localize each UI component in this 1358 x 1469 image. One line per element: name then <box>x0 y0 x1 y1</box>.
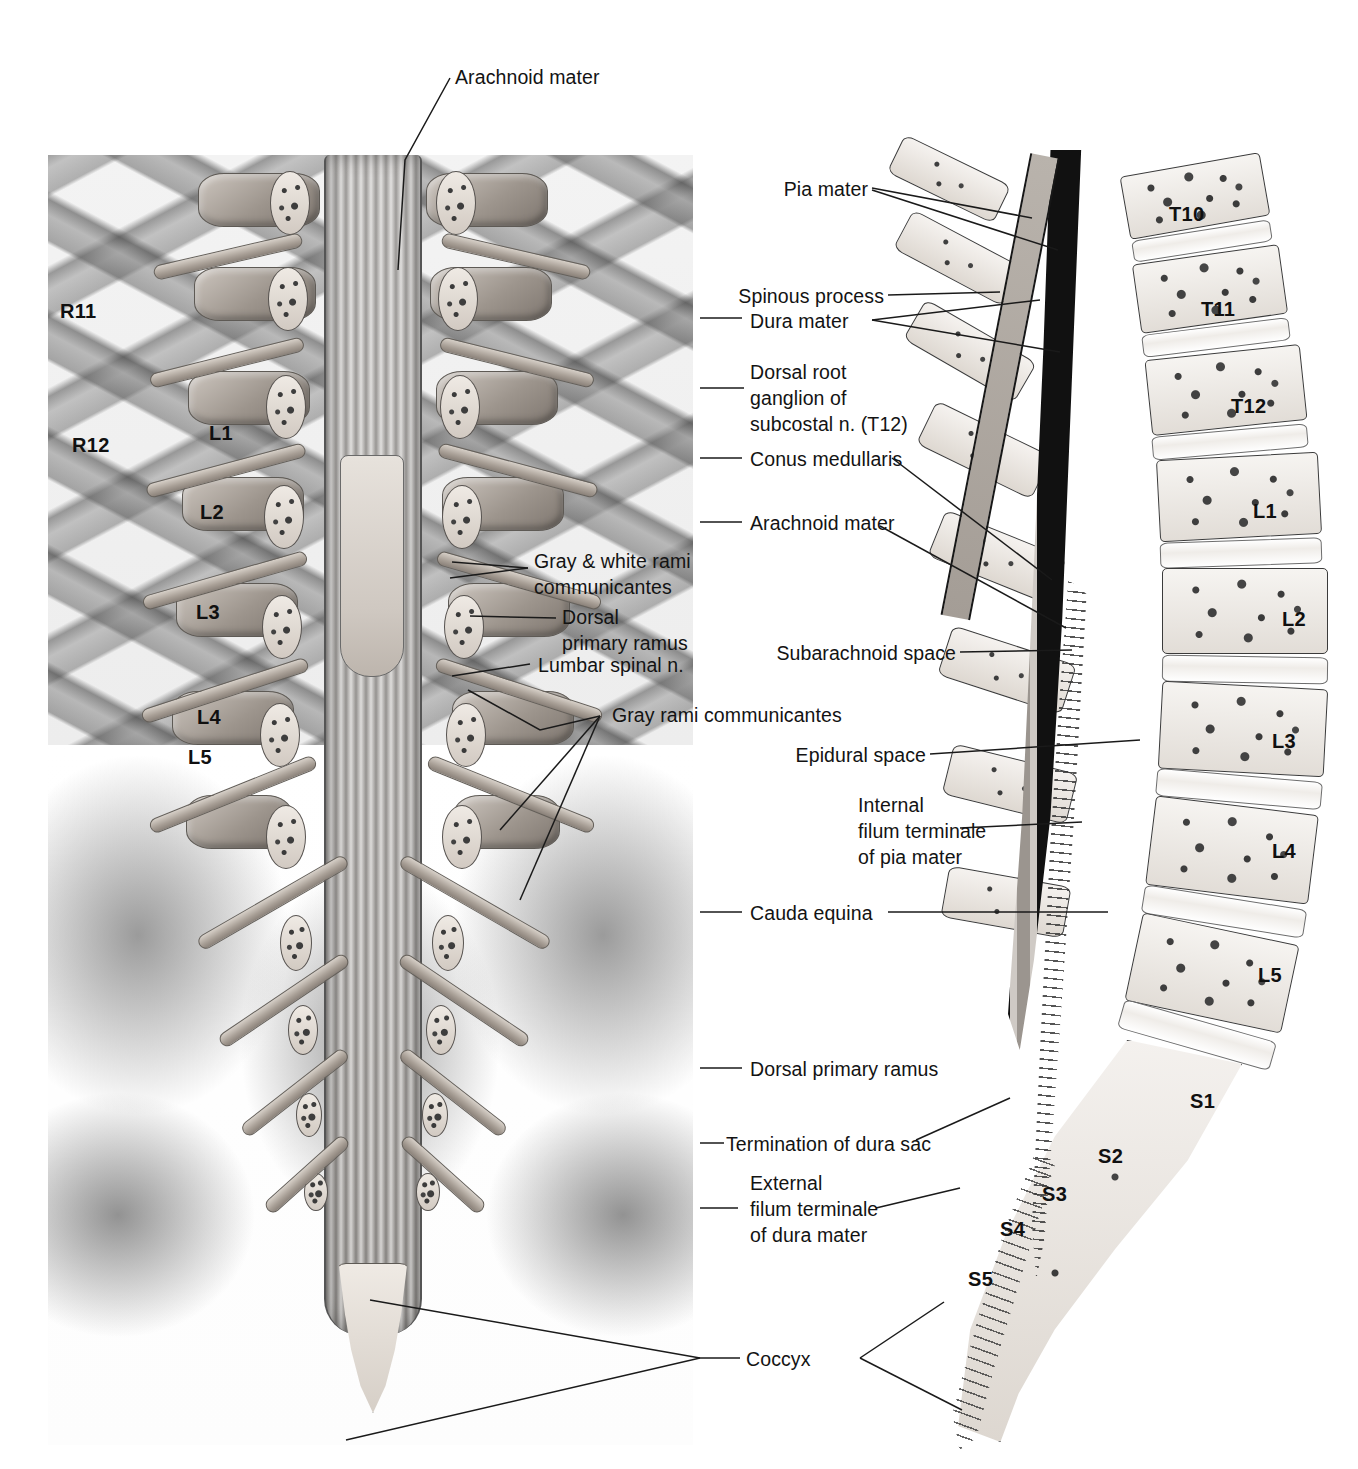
level-marker-right-L1: L1 <box>1253 500 1277 523</box>
level-marker-right-L5: L5 <box>1258 964 1282 987</box>
conus-medullaris-shape <box>340 455 404 677</box>
level-marker-T11: T11 <box>1201 298 1235 321</box>
label-external-filum-terminale-line2: filum terminale <box>750 1196 878 1222</box>
transverse-process-cut <box>264 485 304 549</box>
transverse-process-cut <box>262 595 302 659</box>
label-gray-white-rami-line1: Gray & white rami <box>534 548 691 574</box>
label-dorsal-root-ganglion-line2: ganglion of <box>750 385 847 411</box>
transverse-process-cut <box>442 485 482 549</box>
level-marker-left-L5: L5 <box>188 746 212 769</box>
sacral-foramen-cut <box>426 1005 456 1055</box>
vertebral-body-T12 <box>1144 344 1307 436</box>
transverse-process-cut <box>266 375 306 439</box>
label-epidural-space: Epidural space <box>740 742 926 768</box>
level-marker-S4: S4 <box>1000 1218 1025 1241</box>
level-marker-S5: S5 <box>968 1268 993 1291</box>
figure-canvas: Arachnoid mater Gray & white rami commun… <box>0 0 1358 1469</box>
label-internal-filum-terminale-line2: filum terminale <box>858 818 986 844</box>
level-marker-R12: R12 <box>72 434 110 457</box>
label-termination-of-dura-sac: Termination of dura sac <box>726 1131 931 1157</box>
label-gray-white-rami-line2: communicantes <box>534 574 672 600</box>
level-marker-right-L4: L4 <box>1272 840 1296 863</box>
label-dura-mater: Dura mater <box>750 308 849 334</box>
intervertebral-disc <box>1162 655 1328 685</box>
level-marker-left-L1: L1 <box>209 422 233 445</box>
level-marker-R11: R11 <box>60 300 97 323</box>
label-external-filum-terminale-line3: of dura mater <box>750 1222 867 1248</box>
sacral-foramen-cut <box>280 915 312 971</box>
level-marker-S1: S1 <box>1190 1090 1215 1113</box>
transverse-process-cut <box>440 375 480 439</box>
label-pia-mater: Pia mater <box>698 176 868 202</box>
label-internal-filum-terminale-line1: Internal <box>858 792 924 818</box>
level-marker-left-L3: L3 <box>196 601 220 624</box>
spinous-process-T10 <box>887 134 1011 223</box>
level-marker-left-L4: L4 <box>197 706 221 729</box>
level-marker-right-L2: L2 <box>1282 608 1306 631</box>
label-spinous-process: Spinous process <box>668 283 884 309</box>
sacral-foramen-cut <box>296 1093 322 1137</box>
label-external-filum-terminale-line1: External <box>750 1170 822 1196</box>
transverse-process-cut <box>266 805 306 869</box>
level-marker-right-L3: L3 <box>1272 730 1296 753</box>
label-gray-rami-communicantes: Gray rami communicantes <box>612 702 842 728</box>
transverse-process-cut <box>446 703 486 767</box>
dural-sac-cauda-equina-column <box>324 155 422 1335</box>
level-marker-T10: T10 <box>1169 203 1204 226</box>
transverse-process-cut <box>442 805 482 869</box>
right-illustration-sagittal-section <box>880 150 1310 1450</box>
label-lumbar-spinal-n: Lumbar spinal n. <box>538 652 684 678</box>
sacral-foramen-cut <box>422 1093 448 1137</box>
left-illustration-posterior-view <box>48 155 693 1445</box>
transverse-process-cut <box>268 267 308 331</box>
level-marker-left-L2: L2 <box>200 501 224 524</box>
label-dorsal-root-ganglion-line3: subcostal n. (T12) <box>750 411 908 437</box>
level-marker-S3: S3 <box>1042 1183 1067 1206</box>
intervertebral-disc <box>1160 537 1323 569</box>
label-arachnoid-mater-2: Arachnoid mater <box>750 510 895 536</box>
transverse-process-cut <box>438 267 478 331</box>
transverse-process-cut <box>270 171 310 235</box>
label-conus-medullaris: Conus medullaris <box>750 446 902 472</box>
sacral-foramen-cut <box>432 915 464 971</box>
level-marker-S2: S2 <box>1098 1145 1123 1168</box>
label-dorsal-primary-ramus: Dorsal primary ramus <box>750 1056 938 1082</box>
vertebral-body-L1 <box>1156 452 1322 542</box>
label-dorsal-primary-ramus-upper-line1: Dorsal <box>562 604 619 630</box>
transverse-process-cut <box>260 703 300 767</box>
label-internal-filum-terminale-line3: of pia mater <box>858 844 962 870</box>
label-subarachnoid-space: Subarachnoid space <box>740 640 956 666</box>
sacral-foramen-cut <box>288 1005 318 1055</box>
vertebral-body-L3 <box>1158 681 1328 778</box>
label-coccyx: Coccyx <box>746 1346 811 1372</box>
label-dorsal-root-ganglion-line1: Dorsal root <box>750 359 846 385</box>
transverse-process-cut <box>436 171 476 235</box>
transverse-process-cut <box>444 595 484 659</box>
label-arachnoid-mater-top: Arachnoid mater <box>455 64 600 90</box>
level-marker-T12: T12 <box>1231 395 1266 418</box>
label-cauda-equina: Cauda equina <box>750 900 873 926</box>
